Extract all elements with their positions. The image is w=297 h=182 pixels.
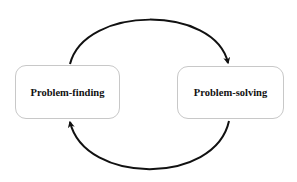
node-label: Problem-finding <box>31 87 105 98</box>
arrow-finding-to-solving <box>70 20 228 64</box>
arrow-solving-to-finding <box>70 121 229 169</box>
node-problem-finding: Problem-finding <box>15 65 120 119</box>
node-label: Problem-solving <box>194 87 267 98</box>
node-problem-solving: Problem-solving <box>177 66 284 119</box>
cycle-diagram: Problem-finding Problem-solving <box>0 0 297 182</box>
